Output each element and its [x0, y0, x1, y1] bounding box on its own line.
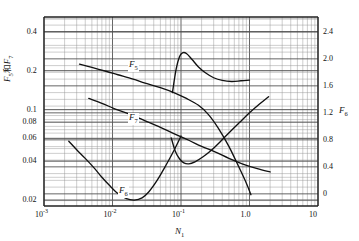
y-left-f7: F [2, 59, 12, 65]
curve-label-f5-sub: 5 [135, 64, 138, 71]
curve-label-f7: F7 [128, 113, 139, 125]
y-left-f5: F [2, 77, 12, 83]
y-left-tick-label: 0.08 [22, 118, 36, 126]
x-tick-label: 1.0 [241, 211, 251, 219]
x-label-sub: 1 [181, 231, 184, 238]
y-right-sub: 6 [345, 110, 348, 117]
y-right-tick-label: 0.8 [323, 136, 333, 144]
y-left-tick-label: 0.02 [22, 196, 36, 204]
x-tick-label: 10-3 [35, 211, 48, 219]
plot-canvas [0, 0, 359, 241]
y-right-tick-label: 2.0 [323, 55, 333, 63]
y-right-tick-label: 1.2 [323, 109, 333, 117]
y-left-tick-label: 0.06 [22, 134, 36, 142]
x-tick-label: 10 [309, 211, 317, 219]
x-axis-label: N1 [175, 227, 184, 239]
y-left-f5-sub: 5 [7, 73, 14, 76]
y-axis-right-label: F6 [339, 106, 348, 118]
y-left-conjunction: 和 [2, 64, 12, 73]
curve-label-f5: F5 [128, 60, 139, 72]
y-left-tick-label: 0.04 [22, 157, 36, 165]
x-tick-label: 10-1 [172, 211, 185, 219]
y-right-tick-label: 1.6 [323, 82, 333, 90]
curve-label-f6-sub: 6 [125, 190, 128, 197]
chart-figure: F5和F7 F6 N1 F5 F7 F6 10-310-210-11.010 0… [0, 0, 359, 241]
y-axis-left-label: F5和F7 [2, 70, 16, 82]
x-tick-label: 10-2 [104, 211, 117, 219]
y-left-tick-label: 0.4 [27, 28, 37, 36]
y-left-f7-sub: 7 [7, 56, 14, 59]
y-left-tick-label: 0.1 [27, 106, 37, 114]
curve-label-f6: F6 [118, 186, 129, 198]
curve-label-f7-sub: 7 [135, 117, 138, 124]
y-right-tick-label: 2.4 [323, 28, 333, 36]
y-left-tick-label: 0.2 [27, 67, 37, 75]
y-right-tick-label: 0 [323, 190, 327, 198]
y-right-tick-label: 0.4 [323, 163, 333, 171]
